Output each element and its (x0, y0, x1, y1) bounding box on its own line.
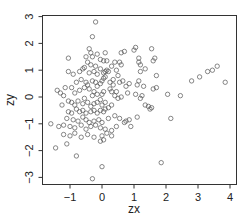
data-point (98, 126, 102, 130)
data-point (71, 118, 75, 122)
data-point (93, 123, 97, 127)
data-point (74, 80, 78, 84)
data-point (98, 67, 102, 71)
data-point (93, 20, 97, 24)
x-tick-label: 4 (227, 191, 233, 203)
data-point (106, 116, 110, 120)
x-axis: −101234 (64, 185, 233, 203)
data-point (89, 63, 93, 67)
data-point (113, 60, 117, 64)
data-point (197, 75, 201, 79)
data-point (189, 79, 193, 83)
data-point (87, 87, 91, 91)
data-point (105, 59, 109, 63)
data-point (87, 71, 91, 75)
data-point (105, 131, 109, 135)
data-point (81, 102, 85, 106)
data-point (103, 51, 107, 55)
data-point (68, 134, 72, 138)
y-axis: −3−2−10123 (23, 14, 43, 184)
data-point (133, 92, 137, 96)
data-point (76, 119, 80, 123)
y-tick-label: 2 (23, 40, 35, 46)
data-point (205, 69, 209, 73)
data-point (57, 124, 61, 128)
data-point (117, 116, 121, 120)
data-point (66, 69, 70, 73)
data-point (79, 123, 83, 127)
data-point (90, 35, 94, 39)
data-point (82, 85, 86, 89)
y-tick-label: −1 (23, 118, 35, 131)
data-point (114, 124, 118, 128)
data-point (138, 69, 142, 73)
data-point (49, 122, 53, 126)
y-tick-label: 3 (23, 14, 35, 20)
x-tick-label: 0 (99, 191, 105, 203)
data-point (92, 135, 96, 139)
data-point (90, 55, 94, 59)
data-point (169, 116, 173, 120)
data-point (141, 84, 145, 88)
y-tick-label: 1 (23, 67, 35, 73)
data-point (135, 115, 139, 119)
data-point (223, 80, 227, 84)
data-point (66, 56, 70, 60)
data-points (49, 20, 228, 181)
x-tick-label: −1 (64, 191, 77, 203)
data-point (100, 120, 104, 124)
data-point (65, 116, 69, 120)
y-tick-label: 0 (23, 94, 35, 100)
x-axis-title: zx (128, 202, 140, 216)
data-point (178, 93, 182, 97)
scatter-chart: −101234 −3−2−10123 zx zy (0, 0, 250, 222)
data-point (61, 123, 65, 127)
data-point (63, 85, 67, 89)
data-point (210, 68, 214, 72)
data-point (165, 92, 169, 96)
data-point (61, 93, 65, 97)
data-point (90, 93, 94, 97)
data-point (93, 64, 97, 68)
data-point (73, 131, 77, 135)
data-point (116, 73, 120, 77)
data-point (89, 124, 93, 128)
data-point (154, 73, 158, 77)
data-point (53, 146, 57, 150)
data-point (113, 114, 117, 118)
x-tick-label: 2 (163, 191, 169, 203)
data-point (111, 77, 115, 81)
data-point (129, 124, 133, 128)
data-point (98, 97, 102, 101)
data-point (61, 132, 65, 136)
data-point (71, 72, 75, 76)
data-point (73, 126, 77, 130)
data-point (85, 100, 89, 104)
data-point (109, 134, 113, 138)
data-point (79, 135, 83, 139)
data-point (125, 91, 129, 95)
data-point (82, 96, 86, 100)
y-axis-title: zy (3, 94, 17, 106)
data-point (103, 100, 107, 104)
data-point (85, 132, 89, 136)
data-point (90, 177, 94, 181)
data-point (109, 103, 113, 107)
data-point (159, 160, 163, 164)
data-point (95, 52, 99, 56)
data-point (84, 55, 88, 59)
y-tick-label: −3 (23, 171, 35, 184)
x-tick-label: 3 (195, 191, 201, 203)
data-point (114, 89, 118, 93)
data-point (69, 85, 73, 89)
data-point (95, 92, 99, 96)
data-point (135, 83, 139, 87)
data-point (95, 72, 99, 76)
data-point (143, 67, 147, 71)
data-point (68, 124, 72, 128)
y-tick-label: −2 (23, 144, 35, 157)
data-point (149, 47, 153, 51)
data-point (77, 88, 81, 92)
data-point (215, 64, 219, 68)
data-point (74, 154, 78, 158)
